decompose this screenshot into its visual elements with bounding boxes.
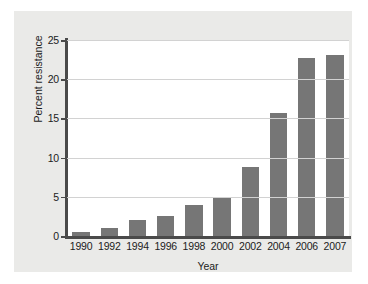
x-axis-tick-label: 2000 [211,240,234,252]
bars-layer [67,40,349,236]
x-axis-line [65,236,351,239]
gridline [67,197,349,198]
x-axis-tick-label: 2006 [295,240,318,252]
gridline [67,158,349,159]
bar-1998 [185,205,202,236]
y-axis-tick [61,197,66,199]
bar-2000 [213,197,230,236]
bar-1994 [129,220,146,236]
y-axis-tick-label: 0 [15,230,59,242]
x-axis-title: Year [67,260,349,272]
x-axis-tick-label: 1996 [154,240,177,252]
gridline [67,79,349,80]
figure-panel: 0510152025 Percent resistance 1990199219… [14,11,352,272]
bar-2006 [298,58,315,236]
bar-2007 [326,55,343,236]
bar-1996 [157,216,174,236]
y-axis-tick [61,40,66,42]
x-axis-tick-label: 1994 [126,240,149,252]
y-axis-title: Percent resistance [32,9,44,149]
x-axis-tick-label: 1992 [98,240,121,252]
x-axis-tick-label: 2007 [324,240,347,252]
y-axis-tick-label: 5 [15,191,59,203]
y-axis-tick [61,79,66,81]
plot-area [67,40,349,236]
y-axis-tick [61,158,66,160]
y-axis-tick [61,236,66,238]
x-axis-tick-label: 2004 [267,240,290,252]
gridline [67,118,349,119]
x-axis-tick-label: 2002 [239,240,262,252]
x-axis-tick-labels: 1990199219941996199820002002200420062007 [67,240,349,256]
bar-2004 [270,113,287,236]
bar-1992 [101,228,118,236]
x-axis-tick-label: 1990 [70,240,93,252]
y-axis-tick [61,118,66,120]
gridline [67,40,349,41]
y-axis-line [65,38,68,238]
x-axis-tick-label: 1998 [183,240,206,252]
y-axis-tick-label: 10 [15,152,59,164]
bar-2002 [242,167,259,236]
